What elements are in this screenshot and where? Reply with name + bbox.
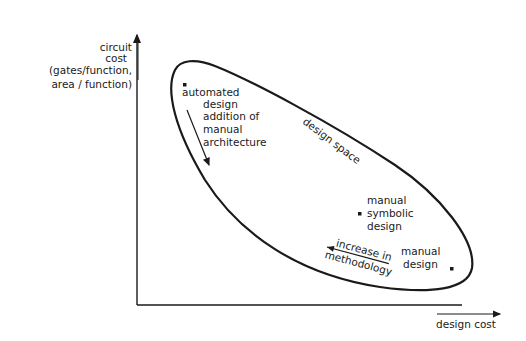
symbolic-design-marker <box>358 212 362 216</box>
y-label-line: cost <box>105 52 127 64</box>
y-axis-label: circuit cost (gates/function, area / fun… <box>49 41 132 90</box>
svg-text:design: design <box>367 220 402 232</box>
svg-text:automated: automated <box>182 86 240 98</box>
manual-design-marker <box>450 267 454 271</box>
svg-text:manual: manual <box>203 123 242 135</box>
design-space-diagram: circuit cost (gates/function, area / fun… <box>0 0 526 341</box>
design-space-label: design space <box>301 115 363 166</box>
svg-text:manual: manual <box>367 194 406 206</box>
svg-text:architecture: architecture <box>203 136 267 148</box>
y-label-line: (gates/function, <box>49 64 132 76</box>
x-axis-label: design cost <box>436 318 496 330</box>
y-label-line: area / function) <box>51 78 132 90</box>
methodology-annotation: increase in methodology <box>324 234 398 277</box>
svg-text:manual: manual <box>401 245 440 257</box>
manual-design-label: manual design <box>401 245 440 270</box>
automated-design-label: automated design addition of manual arch… <box>182 86 267 148</box>
svg-text:addition of: addition of <box>203 110 260 122</box>
x-axis-label-group: design cost <box>436 314 500 330</box>
svg-text:symbolic: symbolic <box>367 207 414 219</box>
svg-text:design: design <box>403 258 438 270</box>
svg-text:design: design <box>203 98 238 110</box>
symbolic-design-label: manual symbolic design <box>367 194 414 232</box>
